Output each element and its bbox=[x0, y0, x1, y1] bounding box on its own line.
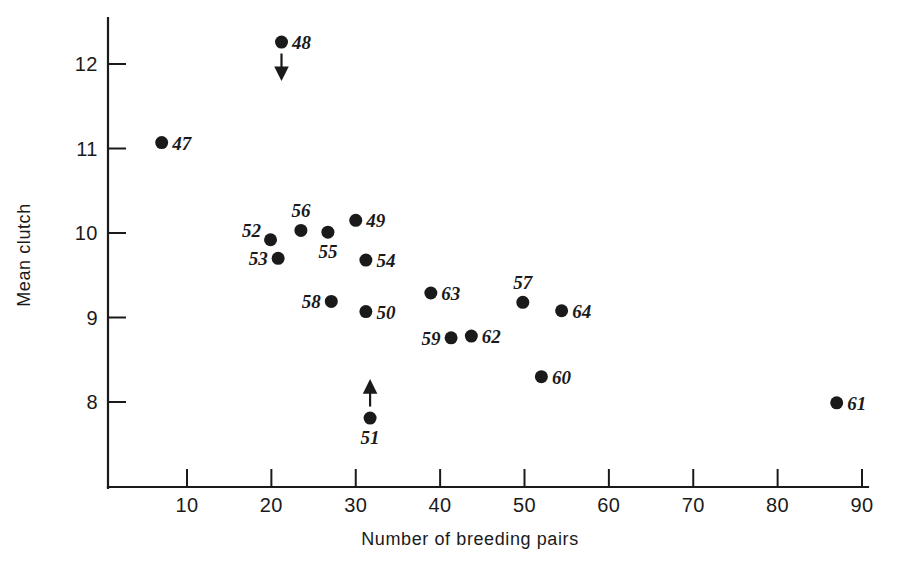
data-point-62[interactable]: 62 bbox=[465, 326, 502, 347]
point-label-54: 54 bbox=[376, 250, 395, 271]
data-points-layer: 474849505152535455565758596061626364 bbox=[155, 32, 866, 448]
x-axis-ticks: 102030405060708090 bbox=[175, 469, 873, 516]
data-point-48[interactable]: 48 bbox=[275, 32, 312, 79]
data-point-53[interactable]: 53 bbox=[249, 248, 285, 269]
point-marker-54[interactable] bbox=[359, 254, 372, 267]
y-tick-label-8: 8 bbox=[86, 391, 98, 413]
point-marker-52[interactable] bbox=[264, 233, 277, 246]
point-marker-64[interactable] bbox=[555, 304, 568, 317]
point-label-58: 58 bbox=[302, 291, 322, 312]
data-point-51[interactable]: 51 bbox=[361, 382, 380, 448]
data-point-50[interactable]: 50 bbox=[359, 302, 396, 323]
point-label-57: 57 bbox=[513, 272, 534, 293]
y-axis-title: Mean clutch bbox=[14, 203, 34, 307]
x-tick-label-10: 10 bbox=[175, 494, 198, 516]
point-marker-58[interactable] bbox=[325, 295, 338, 308]
data-point-54[interactable]: 54 bbox=[359, 250, 395, 271]
point-label-50: 50 bbox=[376, 302, 396, 323]
point-label-55: 55 bbox=[318, 241, 338, 262]
data-point-59[interactable]: 59 bbox=[422, 328, 458, 349]
data-point-57[interactable]: 57 bbox=[513, 272, 534, 309]
point-label-52: 52 bbox=[242, 220, 262, 241]
point-marker-63[interactable] bbox=[424, 286, 437, 299]
point-label-56: 56 bbox=[291, 200, 311, 221]
point-label-64: 64 bbox=[572, 301, 591, 322]
x-tick-label-40: 40 bbox=[429, 494, 452, 516]
arrow-up-head-51 bbox=[365, 382, 376, 393]
x-tick-label-80: 80 bbox=[766, 494, 789, 516]
point-marker-48[interactable] bbox=[275, 36, 288, 49]
point-label-49: 49 bbox=[365, 210, 386, 231]
point-marker-59[interactable] bbox=[445, 331, 458, 344]
point-marker-49[interactable] bbox=[349, 214, 362, 227]
point-marker-50[interactable] bbox=[359, 305, 372, 318]
x-tick-label-70: 70 bbox=[682, 494, 705, 516]
point-label-48: 48 bbox=[291, 32, 312, 53]
x-tick-label-90: 90 bbox=[850, 494, 873, 516]
data-point-58[interactable]: 58 bbox=[302, 291, 338, 312]
point-label-60: 60 bbox=[552, 367, 572, 388]
point-marker-51[interactable] bbox=[364, 412, 377, 425]
x-tick-label-20: 20 bbox=[260, 494, 283, 516]
point-label-61: 61 bbox=[847, 393, 866, 414]
y-tick-label-11: 11 bbox=[76, 138, 98, 160]
point-label-63: 63 bbox=[441, 283, 460, 304]
data-point-64[interactable]: 64 bbox=[555, 301, 591, 322]
scatter-chart-figure: 89101112 102030405060708090 474849505152… bbox=[0, 0, 897, 569]
data-point-52[interactable]: 52 bbox=[242, 220, 277, 247]
point-marker-62[interactable] bbox=[465, 330, 478, 343]
y-tick-label-9: 9 bbox=[86, 307, 98, 329]
point-label-62: 62 bbox=[482, 326, 502, 347]
point-marker-55[interactable] bbox=[321, 226, 334, 239]
data-point-61[interactable]: 61 bbox=[830, 393, 866, 414]
data-point-63[interactable]: 63 bbox=[424, 283, 460, 304]
point-label-59: 59 bbox=[422, 328, 442, 349]
point-label-47: 47 bbox=[171, 133, 193, 154]
point-marker-57[interactable] bbox=[516, 296, 529, 309]
point-marker-60[interactable] bbox=[535, 370, 548, 383]
x-tick-label-50: 50 bbox=[513, 494, 536, 516]
arrow-down-head-48 bbox=[276, 68, 287, 79]
y-tick-label-12: 12 bbox=[75, 53, 98, 75]
point-marker-53[interactable] bbox=[272, 252, 285, 265]
x-axis-title: Number of breeding pairs bbox=[361, 529, 579, 549]
scatter-plot-canvas: 89101112 102030405060708090 474849505152… bbox=[0, 0, 897, 569]
point-label-51: 51 bbox=[361, 427, 380, 448]
point-marker-61[interactable] bbox=[830, 396, 843, 409]
data-point-47[interactable]: 47 bbox=[155, 133, 193, 154]
point-marker-47[interactable] bbox=[155, 136, 168, 149]
data-point-60[interactable]: 60 bbox=[535, 367, 572, 388]
data-point-55[interactable]: 55 bbox=[318, 226, 338, 262]
data-point-56[interactable]: 56 bbox=[291, 200, 311, 237]
point-label-53: 53 bbox=[249, 248, 268, 269]
y-tick-label-10: 10 bbox=[75, 222, 98, 244]
data-point-49[interactable]: 49 bbox=[349, 210, 386, 231]
y-axis-ticks: 89101112 bbox=[75, 53, 126, 413]
x-tick-label-30: 30 bbox=[344, 494, 367, 516]
point-marker-56[interactable] bbox=[294, 224, 307, 237]
x-tick-label-60: 60 bbox=[597, 494, 620, 516]
